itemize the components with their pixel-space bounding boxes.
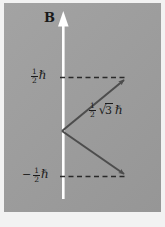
vector-diagram-svg	[0, 0, 165, 227]
figure-container: B 1 2 ℏ − 1 2 ℏ 1 2 √3 ℏ	[0, 0, 165, 227]
vector-magnitude-label: 1 2 √3 ℏ	[88, 99, 123, 119]
magnitude-radicand: 3	[105, 103, 113, 117]
spin-down-vector	[62, 131, 124, 174]
spin-down-minus-sign: −	[22, 168, 31, 181]
magnetic-field-label: B	[44, 11, 55, 24]
spin-down-fraction: 1 2	[33, 167, 40, 184]
spin-down-numerator: 1	[33, 167, 40, 175]
spin-down-level-label: − 1 2 ℏ	[22, 167, 49, 184]
spin-down-denominator: 2	[33, 175, 40, 184]
magnitude-numerator: 1	[89, 102, 96, 110]
magnitude-denominator: 2	[89, 110, 96, 119]
magnitude-hbar-unit: ℏ	[115, 104, 123, 116]
spin-up-denominator: 2	[31, 76, 38, 85]
spin-up-level-label: 1 2 ℏ	[30, 68, 47, 85]
magnitude-fraction: 1 2	[89, 102, 96, 119]
spin-up-fraction: 1 2	[31, 68, 38, 85]
magnetic-field-arrow	[58, 11, 69, 199]
spin-up-numerator: 1	[31, 68, 38, 76]
square-root-icon: √3	[99, 104, 113, 116]
spin-down-hbar-unit: ℏ	[41, 167, 49, 181]
spin-up-hbar-unit: ℏ	[39, 68, 47, 82]
